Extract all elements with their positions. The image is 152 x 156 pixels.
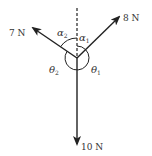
force-arrow-7n bbox=[33, 28, 77, 58]
alpha1-arc bbox=[77, 46, 86, 50]
force-diagram: 8 N 7 N 10 N α2 α1 θ2 θ1 bbox=[0, 0, 152, 156]
force-label-8n: 8 N bbox=[123, 14, 139, 23]
angle-label-alpha2: α2 bbox=[57, 28, 68, 39]
angle-label-alpha1: α1 bbox=[79, 33, 90, 44]
alpha2-arc bbox=[61, 38, 78, 47]
force-label-7n: 7 N bbox=[9, 29, 25, 38]
angle-label-theta1: θ1 bbox=[91, 65, 101, 76]
angle-label-theta2: θ2 bbox=[49, 65, 59, 76]
force-label-10n: 10 N bbox=[81, 143, 103, 152]
force-diagram-graphic bbox=[0, 0, 152, 156]
